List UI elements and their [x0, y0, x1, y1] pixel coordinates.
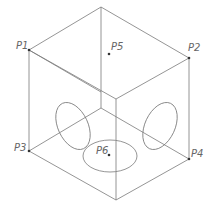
- right-face-circle: [136, 97, 184, 155]
- label-p6: P6: [96, 146, 108, 156]
- edge-p4-bottom: [116, 159, 189, 200]
- edge-p3-bottom: [29, 151, 116, 200]
- label-p3: P3: [14, 143, 26, 153]
- edge-top-p1: [29, 7, 101, 50]
- label-p5: P5: [111, 42, 123, 52]
- point-p5: [108, 53, 111, 56]
- point-p3: [28, 150, 31, 153]
- bottom-face-circle: [83, 140, 137, 172]
- point-p4: [188, 158, 191, 161]
- point-p2: [188, 57, 191, 60]
- edge-p2-front: [116, 58, 189, 99]
- edge-back-p4: [101, 108, 189, 159]
- isometric-cube-diagram: P1 P2 P3 P4 P5 P6: [0, 0, 211, 214]
- label-p1: P1: [16, 41, 28, 51]
- left-face-circle: [49, 97, 97, 155]
- label-p2: P2: [188, 43, 200, 53]
- cube-drawing: [0, 0, 211, 214]
- edge-p3-back: [29, 108, 101, 151]
- label-p4: P4: [191, 149, 203, 159]
- edge-p1-diagonal: [29, 50, 101, 92]
